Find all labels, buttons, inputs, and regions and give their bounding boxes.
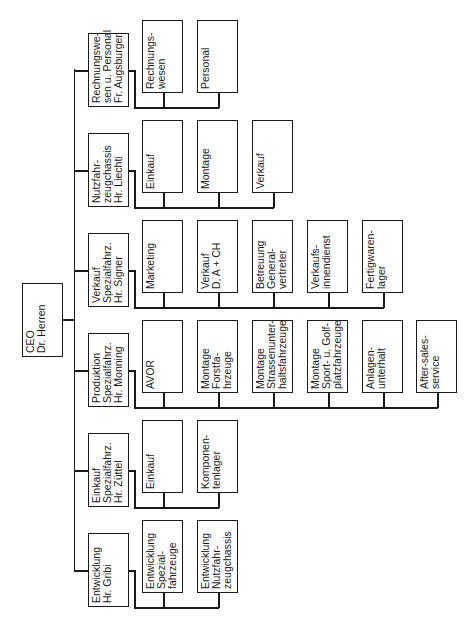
unit-connector [273, 293, 275, 308]
unit-label: After-sales-service [419, 335, 441, 389]
unit-box: Komponen-tenlager [197, 420, 238, 493]
unit-connector [163, 93, 165, 108]
unit-box: After-sales-service [416, 320, 457, 393]
unit-label-line: Montage [200, 148, 211, 189]
unit-label: Verkaufs-innendienst [310, 235, 332, 289]
children-bus-line [134, 607, 219, 609]
department-label: EntwicklungHr. Gribi [91, 547, 113, 603]
department-drop-line [134, 370, 136, 408]
department-box-rechnungswesen: Rechnungswe-sen u. PersonalFr. Augsburge… [88, 33, 129, 107]
department-label: Nutzfahr-zeugchassisHr. Liechti [91, 145, 124, 203]
unit-label-line: Personal [200, 48, 211, 89]
department-label-line: Hr. Liechti [113, 145, 124, 203]
unit-label-line: Einkauf [145, 154, 156, 189]
unit-label: Montage [200, 148, 211, 189]
children-bus-line [134, 507, 219, 509]
unit-label-line: haltsfahrzeuge [277, 320, 288, 389]
unit-label: EntwicklungSpezial-fahrzeuge [145, 533, 178, 589]
org-chart: CEO Dr. Herren Rechnungswe-sen u. Person… [0, 0, 474, 621]
department-box-einkauf-spezialfahrz: EinkaufSpezialfahrz.Hr. Züttel [88, 433, 129, 507]
department-label-line: Hr. Gribi [102, 547, 113, 603]
department-box-verkauf-spezialfahrz: VerkaufSpezialfahrz.Hr. Signer [88, 233, 129, 307]
unit-box: Fertigwaren-lager [362, 220, 403, 293]
unit-connector [163, 393, 165, 408]
unit-box: Verkauf [252, 120, 293, 193]
unit-label: VerkaufD, A + CH [200, 243, 222, 289]
unit-label-line: Verkauf [255, 153, 266, 189]
unit-label: Komponen-tenlager [200, 435, 222, 489]
unit-box: Montage [197, 120, 238, 193]
unit-label: BetreuungGeneral-vertreter [255, 241, 288, 289]
trunk-branch-rechnungswesen [74, 70, 88, 72]
unit-box: Personal [197, 20, 238, 93]
unit-box: Anlagen-unterhalt [362, 320, 403, 393]
unit-box: BetreuungGeneral-vertreter [252, 220, 293, 293]
unit-label-line: lager [376, 230, 387, 289]
unit-label-line: vertreter [277, 241, 288, 289]
unit-label: Fertigwaren-lager [365, 230, 387, 289]
unit-label: MontageForstfa-hrzeuge [200, 348, 233, 389]
unit-box: Rechnungs-wesen [142, 20, 183, 93]
unit-label: Personal [200, 48, 211, 89]
department-label: EinkaufSpezialfahrz.Hr. Züttel [91, 442, 124, 503]
unit-box: AVOR [142, 320, 183, 393]
unit-label: Einkauf [145, 454, 156, 489]
unit-box: Einkauf [142, 120, 183, 193]
unit-label-line: zeugchassis [222, 531, 233, 589]
department-label-line: Fr. Augsburger [113, 30, 124, 103]
unit-label: Rechnungs-wesen [145, 32, 167, 89]
department-label: ProduktionSpezialfahrz.Hr. Monning [91, 342, 124, 403]
trunk-branch-produktion-spezialfahrz [74, 370, 88, 372]
unit-connector [273, 193, 275, 208]
unit-connector [218, 493, 220, 508]
trunk-branch-nutzfahrzeugchassis [74, 170, 88, 172]
unit-box: MontageSport- u. Golf-platzfahrzeuge [307, 320, 348, 393]
department-drop-line [134, 270, 136, 308]
department-drop-line [134, 70, 136, 108]
unit-box: MontageForstfa-hrzeuge [197, 320, 238, 393]
unit-connector [383, 293, 385, 308]
unit-connector [218, 593, 220, 608]
unit-label-line: hrzeuge [222, 348, 233, 389]
trunk-line [74, 69, 76, 571]
ceo-label: CEO Dr. Herren [25, 305, 47, 353]
unit-label: EntwicklungNutzfahr-zeugchassis [200, 531, 233, 589]
unit-box: Verkaufs-innendienst [307, 220, 348, 293]
unit-box: VerkaufD, A + CH [197, 220, 238, 293]
unit-connector [218, 293, 220, 308]
unit-box: MontageStrassenunter-haltsfahrzeuge [252, 320, 293, 393]
trunk-branch-einkauf-spezialfahrz [74, 470, 88, 472]
unit-label: AVOR [145, 360, 156, 389]
unit-label-line: D, A + CH [211, 243, 222, 289]
children-bus-line [134, 307, 384, 309]
unit-connector [328, 393, 330, 408]
unit-label: Einkauf [145, 154, 156, 189]
unit-connector [218, 393, 220, 408]
unit-connector [163, 493, 165, 508]
unit-label-line: platzfahrzeuge [332, 320, 343, 389]
unit-box: Einkauf [142, 420, 183, 493]
unit-connector [163, 593, 165, 608]
unit-box: EntwicklungNutzfahr-zeugchassis [197, 520, 238, 593]
ceo-line-2: Dr. Herren [36, 305, 47, 353]
department-label: Rechnungswe-sen u. PersonalFr. Augsburge… [91, 30, 124, 103]
unit-box: EntwicklungSpezial-fahrzeuge [142, 520, 183, 593]
department-label-line: Hr. Signer [113, 242, 124, 303]
unit-label: MontageSport- u. Golf-platzfahrzeuge [310, 320, 343, 389]
unit-label-line: unterhalt [376, 347, 387, 389]
unit-label: MontageStrassenunter-haltsfahrzeuge [255, 320, 288, 389]
department-drop-line [134, 170, 136, 208]
unit-label-line: Marketing [145, 243, 156, 289]
unit-label-line: tenlager [211, 435, 222, 489]
unit-connector [328, 293, 330, 308]
unit-label-line: wesen [156, 32, 167, 89]
unit-connector [437, 393, 439, 408]
unit-label-line: Einkauf [145, 454, 156, 489]
unit-connector [163, 193, 165, 208]
department-box-entwicklung: EntwicklungHr. Gribi [88, 533, 129, 607]
department-label: VerkaufSpezialfahrz.Hr. Signer [91, 242, 124, 303]
children-bus-line [134, 107, 219, 109]
unit-label: Anlagen-unterhalt [365, 347, 387, 389]
department-box-nutzfahrzeugchassis: Nutzfahr-zeugchassisHr. Liechti [88, 133, 129, 207]
department-label-line: Hr. Züttel [113, 442, 124, 503]
